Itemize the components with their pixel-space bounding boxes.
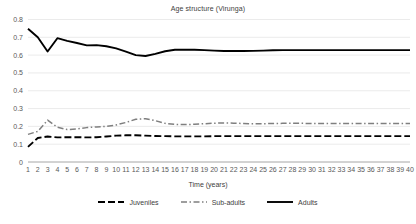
x-axis-tick-label: 21 [220, 166, 228, 173]
y-axis-tick-label: 0.4 [13, 87, 23, 94]
x-axis-tick-label: 13 [142, 166, 150, 173]
legend-label-adults: Adults [298, 199, 317, 206]
x-axis-tick-label: 4 [55, 166, 59, 173]
chart-plot-area: 0.80.70.60.50.40.30.20.10 12345678910111… [0, 0, 416, 224]
x-axis-tick-label: 33 [338, 166, 346, 173]
x-axis-tick-label: 37 [377, 166, 385, 173]
data-series-lines [28, 29, 410, 147]
x-axis-tick-label: 26 [269, 166, 277, 173]
x-axis-labels: 1234567891011121314151617181920212223242… [26, 166, 414, 173]
x-axis-tick-label: 18 [191, 166, 199, 173]
legend-item-adults[interactable]: Adults [267, 198, 317, 206]
y-axis-tick-label: 0.7 [13, 34, 23, 41]
y-axis-labels: 0.80.70.60.50.40.30.20.10 [13, 16, 23, 166]
x-axis-tick-label: 17 [181, 166, 189, 173]
x-axis-tick-label: 38 [387, 166, 395, 173]
x-axis-tick-label: 8 [95, 166, 99, 173]
x-axis-title: Time (years) [0, 181, 416, 188]
x-axis-tick-label: 34 [347, 166, 355, 173]
y-axis-tick-label: 0.6 [13, 52, 23, 59]
x-axis-tick-label: 35 [357, 166, 365, 173]
x-axis-tick-label: 31 [318, 166, 326, 173]
series-line-juveniles [28, 135, 410, 147]
y-axis-tick-label: 0.3 [13, 105, 23, 112]
x-axis-tick-label: 36 [367, 166, 375, 173]
series-line-adults [28, 29, 410, 56]
x-axis-tick-label: 23 [240, 166, 248, 173]
x-axis-tick-label: 29 [298, 166, 306, 173]
chart-legend: Juveniles Sub-adults Adults [0, 198, 416, 206]
legend-swatch-juveniles [98, 198, 124, 206]
legend-swatch-adults [267, 198, 293, 206]
x-axis-tick-label: 24 [249, 166, 257, 173]
x-axis-tick-label: 22 [230, 166, 238, 173]
x-axis-tick-label: 10 [112, 166, 120, 173]
x-axis-tick-label: 40 [406, 166, 414, 173]
grid-lines [28, 20, 410, 163]
x-axis-tick-label: 15 [161, 166, 169, 173]
x-axis-tick-label: 25 [259, 166, 267, 173]
x-axis-tick-label: 30 [308, 166, 316, 173]
x-axis-tick-label: 28 [289, 166, 297, 173]
legend-item-sub-adults[interactable]: Sub-adults [181, 198, 245, 206]
y-axis-tick-label: 0.2 [13, 123, 23, 130]
y-axis-tick-label: 0.1 [13, 141, 23, 148]
x-axis-tick-label: 11 [122, 166, 129, 173]
x-axis-tick-label: 9 [104, 166, 108, 173]
legend-item-juveniles[interactable]: Juveniles [98, 198, 158, 206]
x-axis-tick-label: 1 [26, 166, 30, 173]
x-axis-tick-label: 7 [85, 166, 89, 173]
legend-label-juveniles: Juveniles [129, 199, 158, 206]
y-axis-tick-label: 0.8 [13, 16, 23, 23]
legend-label-sub-adults: Sub-adults [212, 199, 245, 206]
x-axis-tick-label: 2 [36, 166, 40, 173]
x-axis-tick-label: 19 [200, 166, 208, 173]
legend-swatch-sub-adults [181, 198, 207, 206]
y-axis-tick-label: 0.5 [13, 69, 23, 76]
x-axis-tick-label: 27 [279, 166, 287, 173]
x-axis-tick-label: 16 [171, 166, 179, 173]
x-axis-tick-label: 32 [328, 166, 336, 173]
x-axis-tick-label: 14 [151, 166, 159, 173]
chart-container: Age structure (Virunga) 0.80.70.60.50.40… [0, 0, 416, 224]
x-axis-tick-label: 39 [396, 166, 404, 173]
y-axis-tick-label: 0 [19, 159, 23, 166]
x-axis-tick-label: 20 [210, 166, 218, 173]
x-axis-tick-label: 5 [65, 166, 69, 173]
x-axis-tick-label: 6 [75, 166, 79, 173]
x-axis-tick-label: 12 [132, 166, 140, 173]
x-axis-tick-label: 3 [46, 166, 50, 173]
